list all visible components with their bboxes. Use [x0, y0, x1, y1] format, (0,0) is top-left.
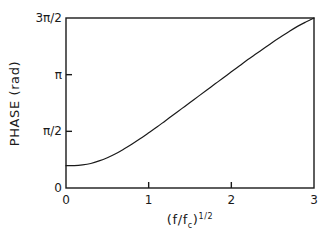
x-axis-title-prefix: (f/f — [167, 212, 188, 227]
x-tick-label: 0 — [62, 193, 70, 207]
y-tick-label: π/2 — [6, 124, 62, 138]
x-tick-label: 2 — [228, 193, 236, 207]
x-axis-title-superscript: 1/2 — [199, 212, 214, 221]
y-tick-label: π — [6, 68, 62, 82]
y-axis-title: PHASE (rad) — [7, 44, 22, 164]
x-tick-label: 1 — [145, 193, 153, 207]
x-tick-label: 3 — [310, 193, 318, 207]
plot-canvas — [0, 0, 331, 243]
y-tick-label: 3π/2 — [6, 11, 62, 25]
y-tick-label: 0 — [6, 181, 62, 195]
phase-plot-figure: PHASE (rad) (f/fc)1/2 0π/2π3π/2 0123 — [0, 0, 331, 243]
x-axis-title: (f/fc)1/2 — [66, 212, 314, 230]
